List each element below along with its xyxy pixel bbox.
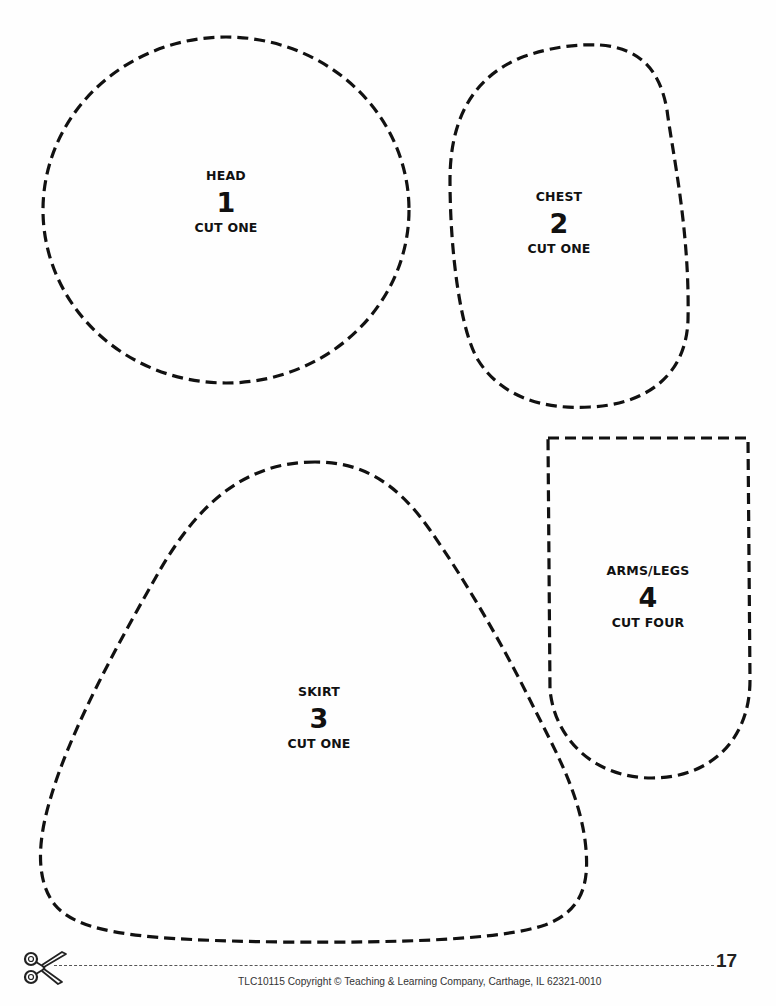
piece-label-arms-legs: ARMS/LEGS 4 CUT FOUR bbox=[607, 565, 690, 629]
pattern-page: HEAD 1 CUT ONE CHEST 2 CUT ONE SKIRT 3 C… bbox=[0, 0, 776, 1006]
piece-number: 3 bbox=[287, 705, 350, 732]
piece-number: 2 bbox=[527, 210, 590, 237]
piece-instruction: CUT ONE bbox=[194, 222, 257, 235]
piece-instruction: CUT ONE bbox=[287, 738, 350, 751]
piece-name: CHEST bbox=[527, 191, 590, 204]
copyright-text: TLC10115 Copyright © Teaching & Learning… bbox=[238, 976, 601, 987]
piece-number: 1 bbox=[194, 189, 257, 216]
piece-label-chest: CHEST 2 CUT ONE bbox=[527, 191, 590, 255]
piece-label-head: HEAD 1 CUT ONE bbox=[194, 170, 257, 234]
cut-line bbox=[54, 965, 714, 966]
piece-number: 4 bbox=[607, 584, 690, 611]
piece-name: HEAD bbox=[194, 170, 257, 183]
pattern-shapes bbox=[0, 0, 776, 1006]
piece-label-skirt: SKIRT 3 CUT ONE bbox=[287, 686, 350, 750]
piece-name: SKIRT bbox=[287, 686, 350, 699]
page-number: 17 bbox=[716, 950, 737, 972]
piece-instruction: CUT FOUR bbox=[607, 617, 690, 630]
piece-instruction: CUT ONE bbox=[527, 243, 590, 256]
scissors-icon bbox=[22, 950, 68, 986]
piece-name: ARMS/LEGS bbox=[607, 565, 690, 578]
